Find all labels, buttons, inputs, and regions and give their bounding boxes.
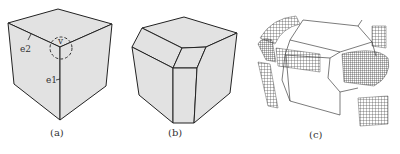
label-e2: e2 [20,44,31,54]
panel-a-cube [8,9,112,120]
label-e1: e1 [46,75,57,85]
caption-a: (a) [50,127,64,138]
caption-c: (c) [309,129,322,140]
panel-b-beveled-cube [132,17,237,123]
label-v: v [57,36,64,46]
mesh-patches [258,16,389,126]
caption-b: (b) [168,127,182,138]
